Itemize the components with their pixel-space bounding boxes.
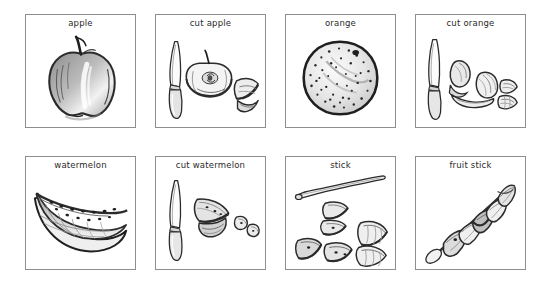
panel-orange: orange — [285, 14, 396, 128]
panel-stick: stick — [285, 156, 396, 270]
panel-label: orange — [286, 18, 395, 28]
panel-cut-watermelon: cut watermelon — [155, 156, 266, 270]
panel-label: apple — [26, 18, 135, 28]
panel-cut-orange: cut orange — [415, 14, 526, 128]
knife-and-halved-apple-icon — [156, 29, 265, 127]
panel-label: fruit stick — [416, 160, 525, 170]
panel-cut-apple: cut apple — [155, 14, 266, 128]
knife-and-orange-segments-icon — [416, 29, 525, 127]
watermelon-slice-icon — [26, 171, 135, 269]
panel-watermelon: watermelon — [25, 156, 136, 270]
panel-label: watermelon — [26, 160, 135, 170]
whole-apple-icon — [26, 29, 135, 127]
panel-label: stick — [286, 160, 395, 170]
illustration-sheet: apple — [0, 0, 547, 282]
skewer-and-loose-fruit-pieces-icon — [286, 171, 395, 269]
whole-orange-icon — [286, 29, 395, 127]
panel-apple: apple — [25, 14, 136, 128]
panel-label: cut orange — [416, 18, 525, 28]
panel-grid: apple — [25, 14, 527, 274]
panel-label: cut apple — [156, 18, 265, 28]
panel-fruit-stick: fruit stick — [415, 156, 526, 270]
knife-and-watermelon-chunks-icon — [156, 171, 265, 269]
assembled-fruit-skewer-icon — [416, 171, 525, 269]
panel-label: cut watermelon — [156, 160, 265, 170]
